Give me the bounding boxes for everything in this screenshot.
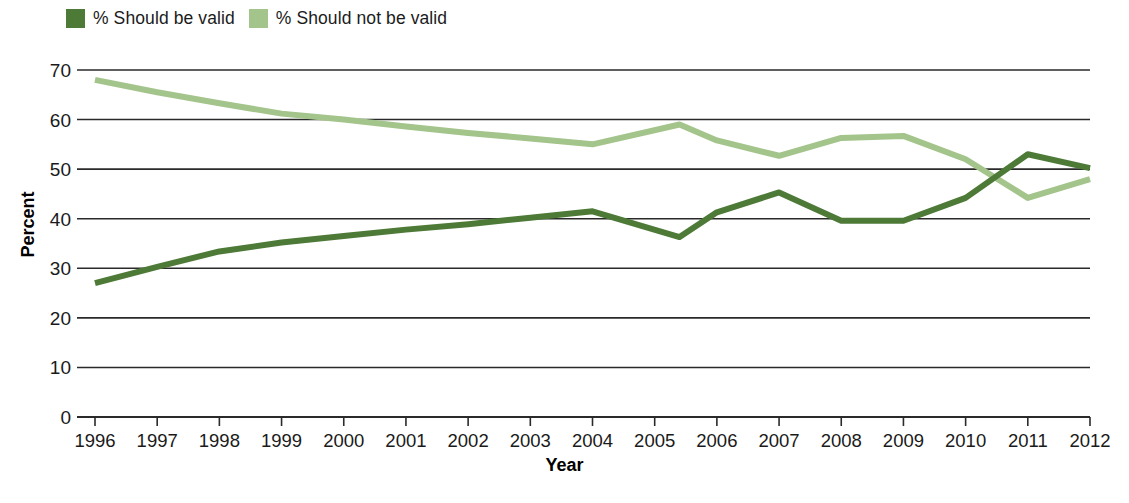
x-tick-label: 1996 xyxy=(63,432,127,451)
x-tick-label: 2007 xyxy=(747,432,811,451)
x-tick-marks xyxy=(95,417,1090,426)
y-tick-label: 20 xyxy=(25,309,71,328)
x-tick-label: 1999 xyxy=(250,432,314,451)
series-lines xyxy=(95,80,1090,283)
x-tick-label: 1997 xyxy=(125,432,189,451)
x-tick-label: 2009 xyxy=(871,432,935,451)
x-tick-label: 2005 xyxy=(623,432,687,451)
series-line-should-not-be-valid xyxy=(95,80,1090,198)
x-tick-label: 2006 xyxy=(685,432,749,451)
x-tick-label: 2000 xyxy=(312,432,376,451)
y-tick-label: 0 xyxy=(25,408,71,427)
gridlines xyxy=(77,70,1090,417)
x-tick-label: 2010 xyxy=(934,432,998,451)
x-tick-label: 1998 xyxy=(187,432,251,451)
x-tick-label: 2002 xyxy=(436,432,500,451)
y-axis-title: Percent xyxy=(18,175,39,275)
line-chart: % Should be valid % Should not be valid … xyxy=(0,0,1129,503)
x-tick-label: 2008 xyxy=(809,432,873,451)
x-tick-label: 2004 xyxy=(561,432,625,451)
y-tick-label: 10 xyxy=(25,358,71,377)
plot-svg xyxy=(0,0,1129,503)
plot-area: 010203040506070 199619971998199920002001… xyxy=(0,0,1129,503)
y-tick-label: 70 xyxy=(25,61,71,80)
y-tick-label: 60 xyxy=(25,111,71,130)
x-tick-label: 2011 xyxy=(996,432,1060,451)
x-tick-label: 2001 xyxy=(374,432,438,451)
x-axis-title: Year xyxy=(0,455,1129,476)
x-tick-label: 2012 xyxy=(1058,432,1122,451)
x-tick-label: 2003 xyxy=(498,432,562,451)
